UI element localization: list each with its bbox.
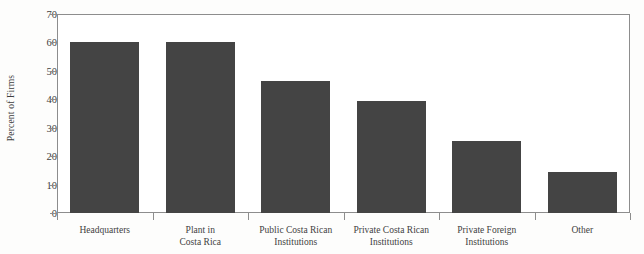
x-axis-tick-mark <box>439 213 440 220</box>
bar <box>452 141 521 213</box>
bar <box>70 42 139 213</box>
x-axis-tick-mark <box>248 213 249 220</box>
x-axis-tick-label-line1: Private Costa Rican <box>354 225 429 235</box>
x-axis-tick-mark <box>153 213 154 220</box>
x-axis-tick-label: Plant inCosta Rica <box>153 224 249 248</box>
bar <box>548 172 617 213</box>
bar <box>166 42 235 213</box>
x-axis-tick-label-line1: Private Foreign <box>457 225 516 235</box>
x-axis-tick-label-line2: Institutions <box>248 236 344 248</box>
x-axis-tick-label-line1: Headquarters <box>79 225 130 235</box>
x-axis-tick-label: Headquarters <box>57 224 153 236</box>
x-axis-tick-label: Other <box>535 224 631 236</box>
x-axis-tick-label-line1: Public Costa Rican <box>259 225 332 235</box>
x-axis-tick-label-line2: Institutions <box>439 236 535 248</box>
x-axis-tick-label-line1: Plant in <box>186 225 215 235</box>
bar-chart: Percent of Firms 010203040506070 Headqua… <box>0 0 644 254</box>
x-axis-tick-mark <box>535 213 536 220</box>
x-axis-tick-mark <box>57 213 58 220</box>
x-axis-tick-mark <box>344 213 345 220</box>
x-axis-tick-label-line2: Costa Rica <box>153 236 249 248</box>
x-axis-tick-label: Public Costa RicanInstitutions <box>248 224 344 248</box>
bars-layer <box>0 0 644 254</box>
x-axis-tick-label-line2: Institutions <box>344 236 440 248</box>
x-axis-tick-label: Private ForeignInstitutions <box>439 224 535 248</box>
bar <box>261 81 330 213</box>
x-axis-tick-mark <box>630 213 631 220</box>
x-axis-tick-label: Private Costa RicanInstitutions <box>344 224 440 248</box>
x-axis-tick-label-line1: Other <box>571 225 593 235</box>
bar <box>357 101 426 213</box>
